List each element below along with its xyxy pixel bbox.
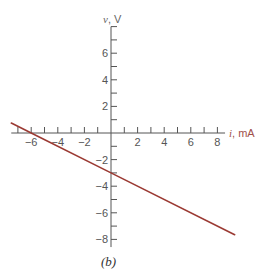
y-tick-label: 4 [102, 74, 108, 86]
x-tick-label: 8 [214, 136, 220, 148]
y-axis-unit: , V [108, 13, 122, 25]
y-tick-label: −8 [95, 233, 108, 245]
x-axis-label: i, mA [229, 127, 255, 139]
x-tick-label: −6 [25, 136, 38, 148]
y-tick-label: −6 [95, 207, 108, 219]
x-tick-label: −2 [78, 136, 91, 148]
figure-caption: (b) [101, 254, 116, 269]
y-axis-label: v, V [103, 13, 122, 25]
x-axis-unit: , mA [232, 127, 255, 139]
x-tick-label: 4 [161, 136, 167, 148]
tick-labels: −6−4−22468−8−6−4−2246 [25, 47, 221, 245]
y-tick-label: 6 [102, 47, 108, 59]
vi-characteristic-chart: −6−4−22468−8−6−4−2246 v, V i, mA (b) [0, 0, 264, 275]
y-tick-label: −2 [95, 154, 108, 166]
characteristic-line [11, 123, 234, 235]
x-tick-label: 2 [135, 136, 141, 148]
y-tick-label: 2 [102, 100, 108, 112]
x-tick-label: 6 [188, 136, 194, 148]
data-series [11, 123, 234, 235]
y-tick-label: −4 [95, 180, 108, 192]
